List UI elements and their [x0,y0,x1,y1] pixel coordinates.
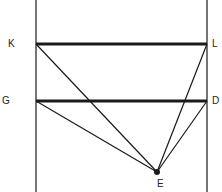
segment-KE [36,44,157,172]
diagram-canvas [0,0,222,192]
segment-DE [157,101,207,172]
segment-LE [157,44,207,172]
label-G: G [2,96,10,106]
label-K: K [8,39,15,49]
label-D: D [212,96,219,106]
label-L: L [212,39,218,49]
label-E: E [157,179,164,189]
segment-GE [36,101,157,172]
point-E-dot [154,169,160,175]
